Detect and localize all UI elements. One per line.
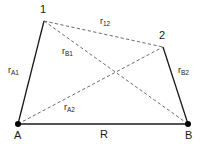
segment-label-sub: B1 [65, 50, 73, 57]
vertex-label-2: 2 [159, 30, 165, 41]
segment-label-r-B2: rB2 [178, 66, 189, 75]
geometry-diagram: 1 2 A B rA1 rB2 R r12 rB1 rA2 [0, 0, 208, 144]
segment-label-sub: A1 [11, 69, 19, 76]
segment-label-r-12: r12 [100, 17, 110, 26]
segment-label-r-A2: rA2 [64, 103, 75, 112]
segment-label-r-A1: rA1 [8, 66, 19, 75]
segment-label-sub: 12 [103, 20, 110, 27]
segment-label-sub: B2 [181, 69, 189, 76]
segment-label-R: R [100, 129, 108, 140]
vertex-label-1: 1 [40, 4, 46, 15]
vertex-label-A: A [14, 130, 21, 141]
segment-r-A1-line [18, 21, 44, 124]
point-A-dot [15, 121, 21, 127]
segment-r-A2-line [18, 47, 163, 124]
segment-r-B2-line [163, 47, 188, 124]
segment-label-base: R [100, 128, 108, 140]
vertex-label-B: B [185, 130, 192, 141]
segment-label-sub: A2 [67, 106, 75, 113]
point-B-dot [185, 121, 191, 127]
segment-label-r-B1: rB1 [62, 47, 73, 56]
